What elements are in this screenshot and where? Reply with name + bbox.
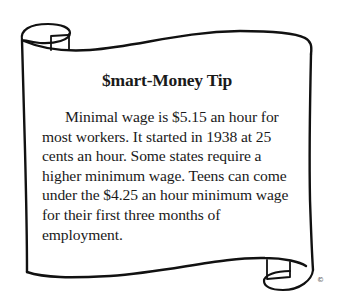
bottom-edge — [27, 258, 306, 277]
tip-title: $mart-Money Tip — [22, 69, 312, 91]
top-edge — [24, 31, 305, 51]
tip-body: Minimal wage is $5.15 an hour for most w… — [42, 107, 298, 244]
tip-paragraph: Minimal wage is $5.15 an hour for most w… — [42, 107, 298, 244]
top-curl — [22, 24, 70, 43]
copyright-icon: © — [317, 276, 324, 284]
bottom-curl — [264, 270, 313, 290]
